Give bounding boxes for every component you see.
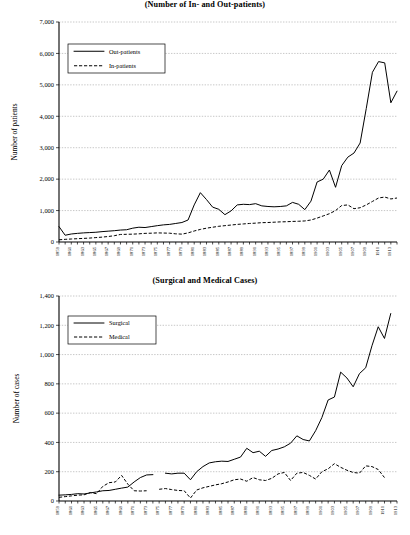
x-tick-label: 1905 xyxy=(338,246,343,256)
y-tick-label: 800 xyxy=(44,380,54,387)
x-tick-label: 1883 xyxy=(205,505,210,515)
x-tick-label: 1867 xyxy=(104,246,109,256)
x-tick-label: 1897 xyxy=(289,246,294,256)
legend-label-medical: Medical xyxy=(109,333,130,340)
x-tick-label: 1885 xyxy=(215,246,220,256)
x-tick-label: 1875 xyxy=(155,505,160,515)
x-tick-label: 1859 xyxy=(55,505,60,515)
x-tick-label: 1907 xyxy=(350,246,355,256)
x-tick-label: 1895 xyxy=(280,505,285,515)
x-tick-label: 1883 xyxy=(202,246,207,256)
patients-chart: 01,0002,0003,0004,0005,0006,0007,0001859… xyxy=(0,10,410,272)
x-tick-label: 1897 xyxy=(293,505,298,515)
x-tick-label: 1881 xyxy=(193,505,198,515)
y-tick-label: 7,000 xyxy=(40,18,54,25)
x-tick-label: 1877 xyxy=(168,505,173,515)
x-tick-label: 1889 xyxy=(239,246,244,256)
x-tick-label: 1865 xyxy=(93,505,98,515)
x-tick-label: 1875 xyxy=(153,246,158,256)
y-tick-label: 4,000 xyxy=(40,113,54,120)
x-tick-label: 1895 xyxy=(276,246,281,256)
figure-patients-title: (Number of In- and Out-patients) xyxy=(0,0,410,10)
x-tick-label: 1903 xyxy=(325,246,330,256)
y-tick-label: 1,000 xyxy=(40,207,54,214)
figure-patients: (Number of In- and Out-patients) 01,0002… xyxy=(0,0,410,272)
cases-chart: 02004006008001,0001,2001,400185918611863… xyxy=(0,286,410,531)
series-line-medical xyxy=(59,464,384,498)
x-tick-label: 1869 xyxy=(118,505,123,515)
y-tick-label: 3,000 xyxy=(40,144,54,151)
x-tick-label: 1905 xyxy=(343,505,348,515)
y-tick-label: 600 xyxy=(44,409,54,416)
x-tick-label: 1859 xyxy=(55,246,60,256)
chart-page: (Number of In- and Out-patients) 01,0002… xyxy=(0,0,410,535)
x-tick-label: 1889 xyxy=(243,505,248,515)
x-tick-label: 1891 xyxy=(252,246,257,256)
legend-label-surgical: Surgical xyxy=(109,319,130,326)
x-tick-label: 1873 xyxy=(141,246,146,256)
x-tick-label: 1887 xyxy=(227,246,232,256)
x-tick-label: 1881 xyxy=(190,246,195,256)
x-tick-label: 1861 xyxy=(67,246,72,256)
y-tick-label: 400 xyxy=(44,439,54,446)
y-tick-label: 0 xyxy=(51,497,54,504)
x-tick-label: 1909 xyxy=(368,505,373,515)
x-tick-label: 1899 xyxy=(301,246,306,256)
y-tick-label: 200 xyxy=(44,468,54,475)
y-tick-label: 6,000 xyxy=(40,50,54,57)
x-tick-label: 1863 xyxy=(80,505,85,515)
y-tick-label: 2,000 xyxy=(40,175,54,182)
x-tick-label: 1893 xyxy=(268,505,273,515)
x-tick-label: 1913 xyxy=(393,505,398,515)
x-tick-label: 1909 xyxy=(362,246,367,256)
legend-label-out-patients: Out-patients xyxy=(109,48,141,55)
x-tick-label: 1901 xyxy=(313,246,318,256)
x-tick-label: 1913 xyxy=(387,246,392,256)
figure-cases: (Surgical and Medical Cases) 02004006008… xyxy=(0,276,410,531)
y-tick-label: 1,200 xyxy=(40,322,54,329)
x-tick-label: 1903 xyxy=(330,505,335,515)
x-tick-label: 1865 xyxy=(92,246,97,256)
x-tick-label: 1891 xyxy=(255,505,260,515)
y-tick-label: 1,000 xyxy=(40,351,54,358)
y-tick-label: 1,400 xyxy=(40,292,54,299)
series-line-in-patients xyxy=(59,197,397,240)
x-tick-label: 1867 xyxy=(105,505,110,515)
legend-label-in-patients: In-patients xyxy=(109,62,136,69)
x-tick-label: 1863 xyxy=(80,246,85,256)
x-tick-label: 1871 xyxy=(130,505,135,515)
x-tick-label: 1873 xyxy=(143,505,148,515)
x-tick-label: 1911 xyxy=(380,505,385,515)
figure-cases-title: (Surgical and Medical Cases) xyxy=(0,276,410,286)
x-tick-label: 1871 xyxy=(129,246,134,256)
x-tick-label: 1899 xyxy=(305,505,310,515)
x-tick-label: 1911 xyxy=(375,246,380,256)
y-tick-label: 5,000 xyxy=(40,81,54,88)
x-tick-label: 1879 xyxy=(180,505,185,515)
x-tick-label: 1893 xyxy=(264,246,269,256)
x-tick-label: 1885 xyxy=(218,505,223,515)
x-tick-label: 1901 xyxy=(318,505,323,515)
y-tick-label: 0 xyxy=(51,238,54,245)
x-tick-label: 1887 xyxy=(230,505,235,515)
x-tick-label: 1907 xyxy=(355,505,360,515)
x-tick-label: 1879 xyxy=(178,246,183,256)
x-tick-label: 1877 xyxy=(166,246,171,256)
series-line-out-patients xyxy=(59,62,397,236)
y-axis-title: Number of patients xyxy=(10,103,19,160)
y-axis-title: Number of cases xyxy=(12,374,21,424)
x-tick-label: 1861 xyxy=(68,505,73,515)
x-tick-label: 1869 xyxy=(116,246,121,256)
